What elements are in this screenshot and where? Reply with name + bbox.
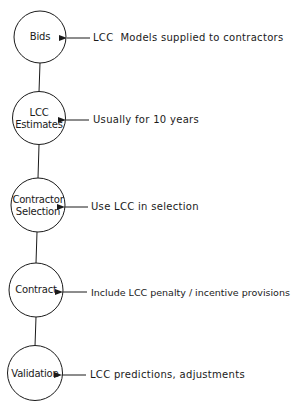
node-label-line2: Estimates [11, 119, 67, 131]
connector-bids-to-estimates [39, 63, 40, 92]
node-label-line1: LCC [11, 107, 67, 119]
node-lcc-estimates: LCC Estimates [11, 107, 67, 131]
note-contract: Include LCC penalty / incentive provisio… [91, 287, 290, 299]
node-label-contract: Contract [8, 284, 64, 296]
node-contract: Contract [8, 284, 64, 296]
note-bids: LCC Models supplied to contractors [93, 32, 283, 44]
node-label-bids: Bids [12, 31, 68, 43]
connector-contract-to-validation [35, 317, 36, 346]
connector-selection-to-contract [36, 232, 37, 263]
node-label-line2: Selection [10, 206, 66, 218]
node-bids: Bids [12, 31, 68, 43]
node-label-line1: Contractor [10, 194, 66, 206]
node-contractor-selection: Contractor Selection [10, 194, 66, 218]
note-validation: LCC predictions, adjustments [90, 369, 245, 381]
node-validation: Validation [7, 368, 63, 380]
node-label-validation: Validation [7, 368, 63, 380]
note-lcc-estimates: Usually for 10 years [93, 114, 199, 126]
connector-estimates-to-selection [38, 145, 39, 178]
note-contractor-selection: Use LCC in selection [91, 201, 199, 213]
